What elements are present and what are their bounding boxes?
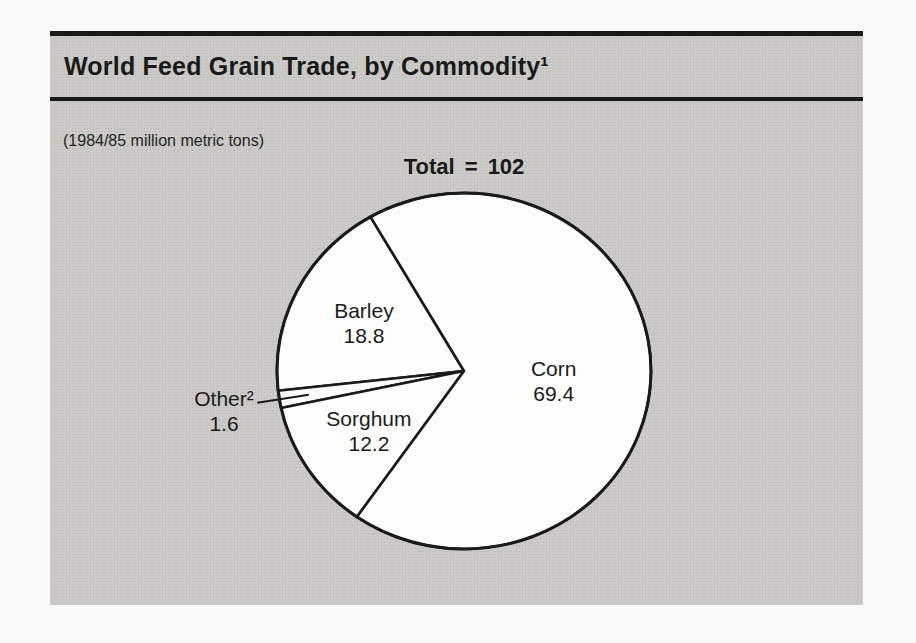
pie-slice-label-other: Other²1.6 <box>194 387 254 435</box>
pie-chart-svg: Barley18.8Other²1.6Sorghum12.2Corn69.4 <box>0 0 916 643</box>
scanned-chart-page: World Feed Grain Trade, by Commodity¹ (1… <box>0 0 916 643</box>
